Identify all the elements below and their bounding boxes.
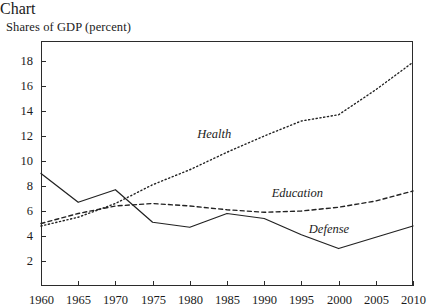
series-lines — [41, 62, 413, 248]
y-axis-tick-label: 18 — [7, 55, 33, 68]
y-axis-tick-label: 2 — [7, 255, 33, 268]
y-axis-tick-label: 14 — [7, 105, 33, 118]
series-label-education: Education — [272, 186, 323, 201]
series-label-health: Health — [197, 127, 231, 142]
chart-canvas — [0, 18, 445, 308]
y-axis-tick-label: 6 — [7, 205, 33, 218]
chart-figure: Shares of GDP (percent) 24681012141618 1… — [0, 18, 445, 308]
y-axis-tick-label: 4 — [7, 230, 33, 243]
y-axis-tick-label: 8 — [7, 180, 33, 193]
y-axis-tick-label: 16 — [7, 80, 33, 93]
y-axis-tick-marks — [41, 62, 46, 262]
y-axis-tick-label: 10 — [7, 155, 33, 168]
series-line-health — [41, 62, 413, 226]
x-axis-tick-label: 2010 — [391, 294, 437, 307]
series-label-defense: Defense — [309, 222, 349, 237]
y-axis-tick-label: 12 — [7, 130, 33, 143]
x-axis-tick-marks — [42, 281, 414, 286]
